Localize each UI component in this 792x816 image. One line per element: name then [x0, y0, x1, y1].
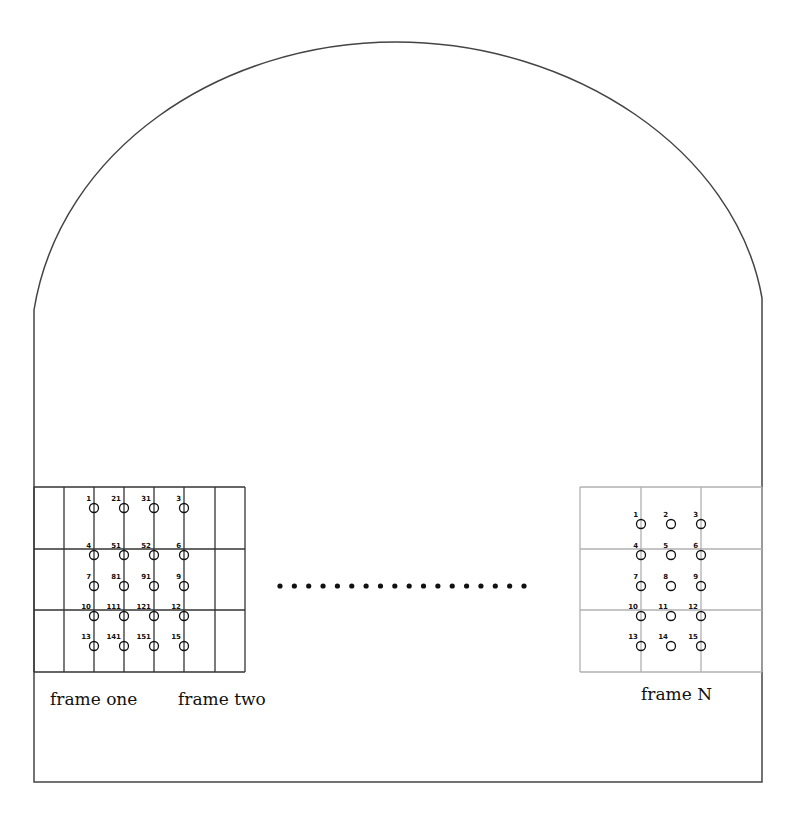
- label-frame-n: frame N: [641, 684, 712, 704]
- node: 3: [693, 511, 705, 529]
- dot: [277, 583, 282, 588]
- dot: [435, 583, 440, 588]
- node-label: 111: [106, 603, 121, 611]
- node-label: 1: [86, 495, 91, 503]
- node: 12: [171, 603, 188, 621]
- dot: [507, 583, 512, 588]
- node-circle-icon: [667, 551, 676, 560]
- frames-group: 1213134515267819191011112112131411511512…: [34, 487, 762, 672]
- node-circle-icon: [667, 520, 676, 529]
- node-circle-icon: [667, 642, 676, 651]
- dot: [306, 583, 311, 588]
- node-label: 9: [176, 573, 181, 581]
- node-label: 5: [663, 542, 668, 550]
- node: 31: [141, 495, 158, 513]
- node-circle-icon: [667, 582, 676, 591]
- node: 121: [136, 603, 158, 621]
- node: 3: [176, 495, 188, 513]
- node: 14: [658, 633, 675, 651]
- node: 13: [628, 633, 645, 651]
- node-label: 6: [176, 542, 181, 550]
- node: 141: [106, 633, 128, 651]
- node-circle-icon: [667, 612, 676, 621]
- diagram-canvas: 1213134515267819191011112112131411511512…: [0, 0, 792, 816]
- node-label: 6: [693, 542, 698, 550]
- node: 9: [176, 573, 188, 591]
- node-label: 141: [106, 633, 121, 641]
- node-label: 91: [141, 573, 151, 581]
- node-label: 7: [633, 573, 638, 581]
- node-label: 52: [141, 542, 151, 550]
- node-label: 9: [693, 573, 698, 581]
- node: 13: [81, 633, 98, 651]
- node-label: 3: [176, 495, 181, 503]
- node: 6: [176, 542, 188, 560]
- dot: [335, 583, 340, 588]
- node: 1: [633, 511, 645, 529]
- dot: [478, 583, 483, 588]
- node: 1: [86, 495, 98, 513]
- node-label: 12: [688, 603, 698, 611]
- node-label: 8: [663, 573, 668, 581]
- label-frame-one: frame one: [50, 689, 137, 709]
- dot: [407, 583, 412, 588]
- node: 52: [141, 542, 158, 560]
- dot: [450, 583, 455, 588]
- node: 15: [171, 633, 188, 651]
- node: 10: [81, 603, 98, 621]
- dot: [493, 583, 498, 588]
- node-label: 31: [141, 495, 151, 503]
- frame-n: 123456789101112131415: [580, 487, 762, 672]
- dot: [364, 583, 369, 588]
- dot: [378, 583, 383, 588]
- node-label: 4: [633, 542, 638, 550]
- node-label: 11: [658, 603, 668, 611]
- node: 5: [663, 542, 675, 560]
- node: 8: [663, 573, 675, 591]
- node-label: 151: [136, 633, 151, 641]
- node: 7: [633, 573, 645, 591]
- node-label: 3: [693, 511, 698, 519]
- node: 51: [111, 542, 128, 560]
- node-label: 13: [628, 633, 638, 641]
- dot: [464, 583, 469, 588]
- node: 15: [688, 633, 705, 651]
- node: 6: [693, 542, 705, 560]
- node-label: 121: [136, 603, 151, 611]
- node: 4: [86, 542, 98, 560]
- node-label: 1: [633, 511, 638, 519]
- node-label: 14: [658, 633, 668, 641]
- node-label: 10: [81, 603, 91, 611]
- node: 111: [106, 603, 128, 621]
- label-frame-two: frame two: [178, 689, 266, 709]
- node: 21: [111, 495, 128, 513]
- dot: [349, 583, 354, 588]
- node-label: 2: [663, 511, 668, 519]
- node-label: 21: [111, 495, 121, 503]
- node-label: 81: [111, 573, 121, 581]
- node: 12: [688, 603, 705, 621]
- node: 9: [693, 573, 705, 591]
- node: 91: [141, 573, 158, 591]
- dot: [421, 583, 426, 588]
- arched-enclosure: [34, 42, 762, 782]
- node-label: 51: [111, 542, 121, 550]
- node-label: 13: [81, 633, 91, 641]
- dot: [521, 583, 526, 588]
- dot: [320, 583, 325, 588]
- dot: [292, 583, 297, 588]
- node: 81: [111, 573, 128, 591]
- ellipsis-dots: [277, 583, 526, 588]
- node: 10: [628, 603, 645, 621]
- node-label: 15: [171, 633, 181, 641]
- node-label: 4: [86, 542, 91, 550]
- frame-one-and-two: 12131345152678191910111121121314115115: [34, 487, 245, 672]
- node-label: 10: [628, 603, 638, 611]
- node-label: 15: [688, 633, 698, 641]
- dot: [392, 583, 397, 588]
- node: 2: [663, 511, 675, 529]
- node: 4: [633, 542, 645, 560]
- node-label: 12: [171, 603, 181, 611]
- node: 11: [658, 603, 675, 621]
- node-label: 7: [86, 573, 91, 581]
